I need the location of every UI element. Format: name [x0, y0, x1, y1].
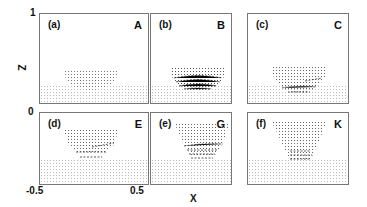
panel-a: (a) A [39, 13, 149, 104]
velocity-field [62, 127, 120, 161]
panel-b: (b) B [150, 13, 232, 104]
panel-label: (a) [48, 19, 60, 30]
panel-c: (c) C [247, 13, 349, 104]
velocity-field [173, 121, 231, 161]
x-tick-max: 0.5 [130, 185, 144, 196]
panel-letter: B [217, 19, 225, 31]
ground-grid [40, 159, 148, 184]
panel-d: (d) E [39, 112, 149, 185]
velocity-field [62, 68, 120, 90]
panel-label: (f) [256, 118, 266, 129]
panel-letter: E [135, 118, 142, 130]
panel-letter: C [334, 19, 342, 31]
panel-f: (f) K [247, 112, 349, 185]
x-tick-min: -0.5 [26, 185, 43, 196]
velocity-field [169, 65, 227, 93]
velocity-field [270, 119, 328, 163]
z-tick-1: 1 [30, 7, 36, 18]
panel-letter: A [134, 19, 142, 31]
panel-label: (e) [159, 118, 171, 129]
velocity-field [270, 64, 328, 94]
panel-letter: K [334, 118, 342, 130]
panel-label: (c) [256, 19, 268, 30]
panel-label: (b) [159, 19, 172, 30]
z-tick-0: 0 [28, 106, 34, 117]
panel-e: (e) G [150, 112, 232, 185]
x-axis-label: X [190, 193, 197, 204]
ground-grid [151, 159, 231, 184]
panel-label: (d) [48, 118, 61, 129]
z-axis-label: Z [16, 64, 27, 70]
